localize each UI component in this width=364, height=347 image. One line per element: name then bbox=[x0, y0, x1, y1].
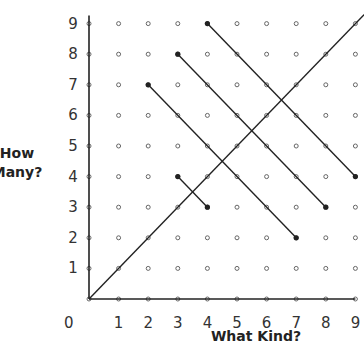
grid-dot bbox=[146, 175, 150, 179]
grid-dot bbox=[205, 266, 209, 270]
endpoint-dot bbox=[146, 82, 151, 87]
number-line-diagram: 123456789 123456789 0 What Kind? How Man… bbox=[0, 0, 364, 347]
grid-dot bbox=[146, 22, 150, 26]
grid-dot bbox=[117, 144, 121, 148]
endpoint-dot bbox=[205, 205, 210, 210]
grid-dot bbox=[324, 22, 328, 26]
y-tick-label: 7 bbox=[68, 76, 78, 94]
y-tick-label: 8 bbox=[68, 45, 78, 63]
grid-dot bbox=[265, 175, 269, 179]
grid-dot bbox=[205, 52, 209, 56]
grid-dot bbox=[294, 22, 298, 26]
endpoint-dot bbox=[294, 235, 299, 240]
grid-dot bbox=[353, 83, 357, 87]
grid-dot bbox=[117, 113, 121, 117]
endpoint-dot bbox=[175, 52, 180, 57]
grid-dot bbox=[117, 52, 121, 56]
grid-dot bbox=[353, 52, 357, 56]
grid-dot bbox=[205, 113, 209, 117]
grid-dot bbox=[353, 144, 357, 148]
grid-dot bbox=[324, 113, 328, 117]
grid-dot bbox=[235, 83, 239, 87]
x-axis-label: What Kind? bbox=[211, 328, 301, 344]
grid-dot bbox=[117, 175, 121, 179]
grid-dot bbox=[146, 205, 150, 209]
y-tick-label: 1 bbox=[68, 259, 78, 277]
grid-dot bbox=[117, 236, 121, 240]
grid-dot bbox=[324, 175, 328, 179]
grid-dot bbox=[146, 52, 150, 56]
grid-dot bbox=[146, 144, 150, 148]
x-tick-label: 2 bbox=[143, 314, 153, 332]
axes bbox=[89, 16, 355, 299]
y-tick-label: 9 bbox=[68, 15, 78, 33]
line-segments bbox=[89, 14, 364, 299]
x-tick-label: 8 bbox=[321, 314, 331, 332]
segment-line bbox=[89, 14, 364, 299]
endpoint-dot bbox=[175, 174, 180, 179]
grid-dot bbox=[353, 266, 357, 270]
grid-dot bbox=[353, 205, 357, 209]
grid-dot bbox=[117, 205, 121, 209]
grid-dot bbox=[265, 52, 269, 56]
y-tick-label: 2 bbox=[68, 229, 78, 247]
grid-dot bbox=[117, 22, 121, 26]
grid-dot bbox=[176, 236, 180, 240]
grid-dot bbox=[235, 236, 239, 240]
endpoint-dot bbox=[323, 205, 328, 210]
grid-dot bbox=[265, 266, 269, 270]
x-tick-label: 3 bbox=[173, 314, 183, 332]
x-tick-label: 9 bbox=[351, 314, 361, 332]
grid-dot bbox=[235, 205, 239, 209]
y-tick-label: 4 bbox=[68, 168, 78, 186]
grid-dot bbox=[353, 113, 357, 117]
grid-dot bbox=[117, 83, 121, 87]
grid-dot bbox=[294, 144, 298, 148]
grid-dot bbox=[353, 236, 357, 240]
grid-dot bbox=[176, 144, 180, 148]
y-tick-label: 3 bbox=[68, 198, 78, 216]
endpoint-dot bbox=[353, 174, 358, 179]
y-axis-label-line2: Many? bbox=[0, 164, 42, 180]
grid-dot bbox=[146, 113, 150, 117]
grid-dot bbox=[176, 266, 180, 270]
grid-dot bbox=[294, 52, 298, 56]
endpoint-dot bbox=[205, 21, 210, 26]
y-tick-label: 6 bbox=[68, 106, 78, 124]
grid-dot bbox=[146, 266, 150, 270]
grid-dot bbox=[176, 83, 180, 87]
grid-dot bbox=[265, 236, 269, 240]
origin-label: 0 bbox=[64, 314, 74, 332]
y-tick-labels: 123456789 bbox=[68, 15, 78, 278]
y-axis-label-line1: How bbox=[0, 145, 34, 161]
grid-dot bbox=[294, 205, 298, 209]
grid-dot bbox=[294, 266, 298, 270]
grid-dot bbox=[205, 236, 209, 240]
grid-dot bbox=[324, 266, 328, 270]
grid-dot bbox=[235, 266, 239, 270]
grid-dot bbox=[324, 236, 328, 240]
grid-dot bbox=[265, 22, 269, 26]
grid-dot bbox=[176, 22, 180, 26]
x-tick-label: 1 bbox=[114, 314, 124, 332]
grid-dot bbox=[235, 22, 239, 26]
grid-dot bbox=[324, 83, 328, 87]
y-tick-label: 5 bbox=[68, 137, 78, 155]
